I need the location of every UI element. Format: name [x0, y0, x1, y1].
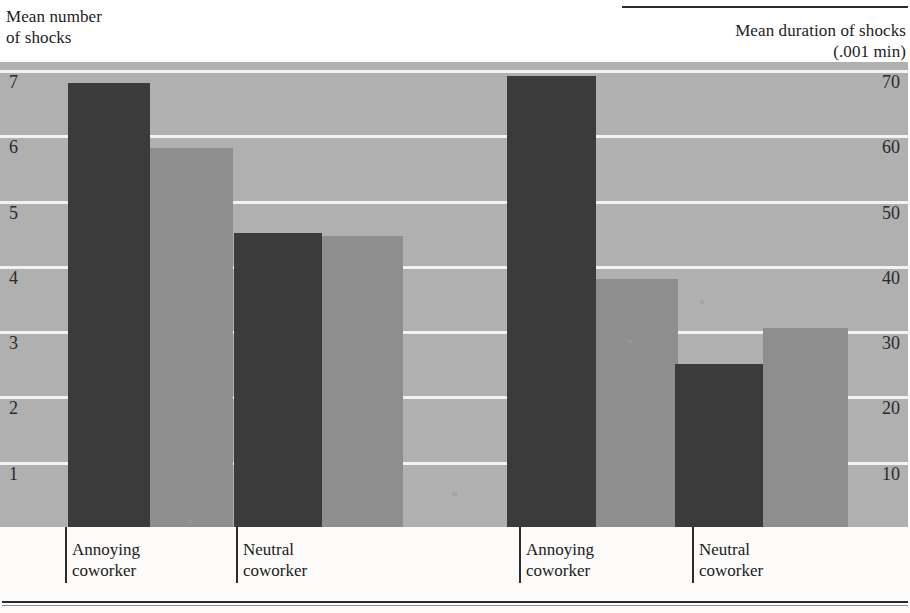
category-tick-3: [692, 527, 694, 583]
bar-light-7: [763, 328, 848, 527]
category-label-2: Annoying coworker: [526, 539, 594, 581]
category-axis-zone: Annoying coworkerNeutral coworkerAnnoyin…: [0, 527, 910, 613]
bar-light-1: [150, 148, 233, 527]
right-tick-20: 20: [882, 399, 900, 417]
left-axis-caption: Mean number of shocks: [6, 6, 102, 48]
left-tick-1: 1: [9, 465, 18, 483]
category-label-0: Annoying coworker: [72, 539, 140, 581]
category-tick-2: [519, 527, 521, 583]
left-tick-6: 6: [9, 138, 18, 156]
left-tick-4: 4: [9, 269, 18, 287]
category-tick-0: [65, 527, 67, 583]
left-tick-5: 5: [9, 204, 18, 222]
scan-speck: [452, 492, 457, 496]
bottom-rule-divider: [2, 601, 908, 603]
right-tick-50: 50: [882, 204, 900, 222]
left-tick-7: 7: [9, 73, 18, 91]
bar-dark-0: [68, 83, 150, 527]
chart-figure: Mean number of shocks Mean duration of s…: [0, 0, 910, 613]
category-label-3: Neutral coworker: [699, 539, 763, 581]
left-tick-2: 2: [9, 399, 18, 417]
right-tick-70: 70: [882, 73, 900, 91]
bar-dark-2: [234, 233, 322, 527]
gridline: [0, 70, 908, 73]
bottom-rule-shadow: [2, 605, 908, 606]
right-tick-60: 60: [882, 138, 900, 156]
scan-speck: [188, 520, 192, 523]
scan-speck: [627, 340, 632, 343]
plot-area: [0, 62, 908, 527]
right-tick-30: 30: [882, 334, 900, 352]
scan-speck: [700, 300, 704, 304]
bar-dark-4: [507, 76, 596, 527]
bar-light-3: [322, 236, 403, 527]
right-tick-10: 10: [882, 465, 900, 483]
right-axis-caption: Mean duration of shocks (.001 min): [735, 20, 906, 62]
category-tick-1: [236, 527, 238, 583]
bar-light-5: [596, 279, 678, 527]
bar-dark-6: [675, 364, 763, 527]
left-tick-3: 3: [9, 334, 18, 352]
category-label-1: Neutral coworker: [243, 539, 307, 581]
top-rule-divider: [622, 6, 908, 8]
right-tick-40: 40: [882, 269, 900, 287]
